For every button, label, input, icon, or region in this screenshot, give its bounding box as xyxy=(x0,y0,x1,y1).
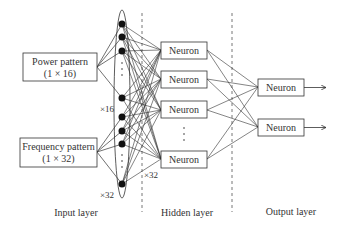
frequency-pattern-size: (1 × 32) xyxy=(42,153,74,165)
input-node xyxy=(119,128,126,135)
svg-text:Neuron: Neuron xyxy=(169,45,199,56)
hidden-layer-neurons: Neuron Neuron Neuron Neuron xyxy=(161,42,207,168)
hidden-neuron: Neuron xyxy=(161,42,207,59)
input-node xyxy=(119,21,126,28)
svg-text:Neuron: Neuron xyxy=(266,82,296,93)
hidden-neuron: Neuron xyxy=(161,151,207,168)
input-node xyxy=(119,114,126,121)
power-pattern-label: Power pattern xyxy=(32,56,88,67)
frequency-pattern-label: Frequency pattern xyxy=(22,141,94,152)
output-layer-label: Output layer xyxy=(266,206,317,217)
input-node xyxy=(119,34,126,41)
svg-text:Neuron: Neuron xyxy=(266,122,296,133)
output-neuron: Neuron xyxy=(258,119,326,136)
svg-text:Neuron: Neuron xyxy=(169,154,199,165)
neural-network-diagram: Power pattern (1 × 16) Frequency pattern… xyxy=(0,0,342,233)
hidden-neuron: Neuron xyxy=(161,101,207,118)
power-pattern-size: (1 × 16) xyxy=(44,68,76,80)
output-layer-neurons: Neuron Neuron xyxy=(258,79,326,136)
frequency-count-label: ×32 xyxy=(100,190,114,200)
hidden-neuron: Neuron xyxy=(161,71,207,88)
power-count-label: ×16 xyxy=(100,104,115,114)
input-node xyxy=(119,95,126,102)
output-neuron: Neuron xyxy=(258,79,326,96)
power-pattern-box: Power pattern (1 × 16) xyxy=(23,53,97,81)
input-node xyxy=(119,141,126,148)
input-layer-label: Input layer xyxy=(54,207,98,218)
hidden-count-label: ×32 xyxy=(144,170,158,180)
frequency-pattern-box: Frequency pattern (1 × 32) xyxy=(20,138,97,167)
hidden-layer-label: Hidden layer xyxy=(161,207,214,218)
input-node xyxy=(119,48,126,55)
svg-text:Neuron: Neuron xyxy=(169,104,199,115)
svg-text:Neuron: Neuron xyxy=(169,74,199,85)
diagram-canvas: Power pattern (1 × 16) Frequency pattern… xyxy=(0,0,342,233)
input-node xyxy=(119,181,126,188)
